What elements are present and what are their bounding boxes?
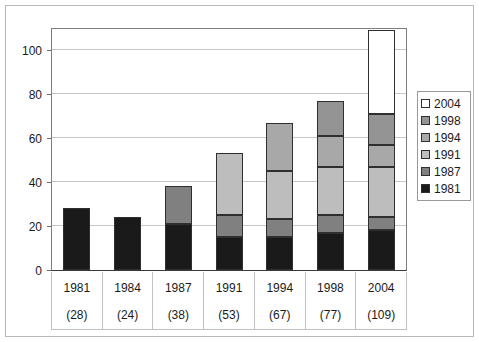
legend-swatch-icon	[421, 167, 430, 176]
legend-label: 1991	[434, 149, 461, 161]
gridline	[52, 49, 406, 50]
legend-item-1994: 1994	[421, 129, 468, 146]
y-axis-tick-label: 80	[0, 89, 42, 101]
x-axis-total-label: (67)	[269, 309, 290, 321]
y-axis-tick-label: 0	[0, 265, 42, 277]
x-axis-year-label: 1981	[64, 282, 91, 294]
x-axis-total-label: (38)	[168, 309, 189, 321]
legend-item-2004: 2004	[421, 95, 468, 112]
chart-screenshot: 020406080100 1981(28)1984(24)1987(38)199…	[0, 0, 479, 342]
x-axis-cell-1994: 1994(67)	[254, 272, 305, 330]
x-axis-cell-1998: 1998(77)	[305, 272, 356, 330]
x-axis-year-label: 1998	[317, 282, 344, 294]
legend-item-1987: 1987	[421, 163, 468, 180]
x-axis-total-label: (53)	[218, 309, 239, 321]
gridline	[52, 137, 406, 138]
x-axis-year-label: 2004	[368, 282, 395, 294]
legend-swatch-icon	[421, 133, 430, 142]
legend-item-1991: 1991	[421, 146, 468, 163]
x-axis-total-label: (109)	[367, 309, 395, 321]
x-axis-year-label: 1994	[266, 282, 293, 294]
legend-label: 1981	[434, 183, 461, 195]
x-axis-total-label: (77)	[320, 309, 341, 321]
gridline	[52, 93, 406, 94]
legend-label: 1987	[434, 166, 461, 178]
legend-swatch-icon	[421, 116, 430, 125]
x-axis-cell-1981: 1981(28)	[51, 272, 102, 330]
legend-swatch-icon	[421, 184, 430, 193]
gridline	[52, 225, 406, 226]
x-axis-year-label: 1987	[165, 282, 192, 294]
x-axis-year-label: 1984	[114, 282, 141, 294]
y-axis-tick-label: 100	[0, 45, 42, 57]
gridline	[52, 181, 406, 182]
x-axis-cell-1984: 1984(24)	[102, 272, 153, 330]
legend-label: 1998	[434, 115, 461, 127]
x-axis-total-label: (28)	[66, 309, 87, 321]
x-axis-year-label: 1991	[216, 282, 243, 294]
legend-item-1981: 1981	[421, 180, 468, 197]
x-axis-cell-1987: 1987(38)	[152, 272, 203, 330]
x-axis-label-table: 1981(28)1984(24)1987(38)1991(53)1994(67)…	[51, 272, 407, 330]
y-axis-tick-label: 40	[0, 177, 42, 189]
legend-swatch-icon	[421, 99, 430, 108]
legend-item-1998: 1998	[421, 112, 468, 129]
y-axis-tick-label: 60	[0, 133, 42, 145]
legend-label: 2004	[434, 98, 461, 110]
x-axis-cell-2004: 2004(109)	[355, 272, 407, 330]
plot-area	[51, 28, 407, 271]
legend-swatch-icon	[421, 150, 430, 159]
y-axis: 020406080100	[0, 28, 51, 271]
x-axis-total-label: (24)	[117, 309, 138, 321]
x-axis-cell-1991: 1991(53)	[203, 272, 254, 330]
y-axis-tick-label: 20	[0, 221, 42, 233]
legend-label: 1994	[434, 132, 461, 144]
legend: 200419981994199119871981	[417, 91, 471, 201]
